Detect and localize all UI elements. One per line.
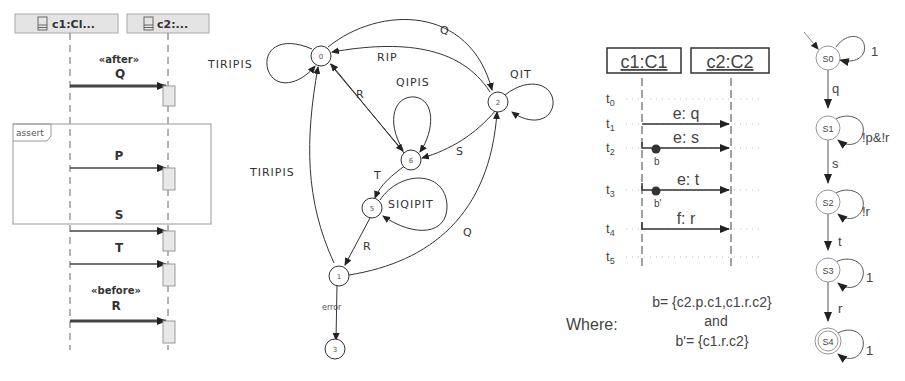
automaton-panel: 0 2 6 5 1 3 TIRIPIS Q RIP QIT QIPIS — [207, 19, 553, 359]
time-label: t5 — [606, 249, 615, 266]
lifeline-head-c2[interactable]: c2:... — [127, 14, 209, 33]
time-label: t1 — [606, 116, 615, 133]
state-node-1[interactable]: 1 — [329, 266, 349, 286]
edge-1-3[interactable] — [336, 285, 337, 340]
buchi-state-S2[interactable]: S2 — [816, 190, 840, 214]
sequence-diagram-panel: c1:Cl... c2:... assert «after» Q P S — [13, 14, 211, 350]
automaton-lower-labels: TIRIPIS T SIQIPIT R Q error — [249, 166, 473, 312]
message-label: e: q — [673, 105, 700, 122]
activation-bar — [163, 168, 175, 190]
edge-label: RIP — [377, 51, 398, 64]
figure-canvas: c1:Cl... c2:... assert «after» Q P S — [0, 0, 905, 381]
marker-label: b — [654, 156, 660, 167]
transition-label: q — [832, 81, 839, 96]
message-stereotype: «before» — [91, 285, 141, 296]
state-label: S2 — [822, 198, 833, 208]
edge-label: QIT — [510, 68, 532, 81]
transition-label: s — [832, 156, 839, 171]
edge-label: S — [456, 145, 464, 158]
node-label: 0 — [319, 53, 323, 61]
edge-2-2[interactable] — [505, 84, 553, 120]
buchi-state-S3[interactable]: S3 — [816, 258, 840, 282]
self-loop-label: 1 — [866, 343, 873, 358]
edge-label: T — [373, 169, 382, 182]
lifeline-head-c1-C1[interactable]: c1:C1 — [607, 48, 681, 73]
initial-arrow — [804, 32, 818, 49]
where-line: b= {c2.p.c1,c1.r.c2} — [652, 294, 772, 310]
message-label: e: s — [673, 129, 699, 146]
marker-label: b' — [654, 198, 662, 209]
buchi-state-S4-accepting[interactable]: S4 — [815, 328, 841, 354]
time-label: t2 — [606, 140, 615, 157]
fragment-label: assert — [16, 128, 44, 138]
edge-label: TIRIPIS — [249, 166, 295, 179]
lifeline-label: c2:... — [157, 18, 188, 31]
edge-0-6[interactable] — [330, 64, 403, 151]
self-loop-label: 1 — [871, 44, 878, 59]
transition-label: t — [838, 234, 842, 249]
lifeline-head-c1[interactable]: c1:Cl... — [15, 14, 118, 33]
lifeline-label: c2:C2 — [706, 52, 753, 72]
state-node-5[interactable]: 5 — [362, 198, 382, 218]
lifeline-head-c2-C2[interactable]: c2:C2 — [691, 48, 769, 73]
state-label: S0 — [822, 54, 833, 64]
state-node-0[interactable]: 0 — [311, 46, 331, 66]
activation-bar — [163, 86, 175, 106]
lifeline-label: c1:C1 — [620, 52, 667, 72]
edge-label: Q — [440, 24, 450, 37]
assert-fragment: assert — [13, 124, 211, 224]
self-loop-label: !p&!r — [862, 130, 890, 145]
buchi-state-S1[interactable]: S1 — [816, 116, 840, 140]
time-label: t0 — [606, 91, 615, 108]
state-node-2[interactable]: 2 — [488, 92, 508, 112]
buchi-state-S0[interactable]: S0 — [816, 46, 840, 70]
activation-bar — [163, 264, 175, 286]
node-label: 6 — [409, 157, 414, 165]
edge-label: QIPIS — [396, 76, 430, 89]
timed-sequence-panel: c1:C1 c2:C2 t0 t1 t2 t3 t4 t5 e — [566, 48, 772, 349]
edge-0-0[interactable] — [267, 44, 315, 83]
self-loop-label: 1 — [866, 270, 873, 285]
state-node-6[interactable]: 6 — [401, 150, 421, 170]
edge-1-0[interactable] — [310, 67, 334, 263]
lifeline-label: c1:Cl... — [52, 18, 95, 31]
message-label: S — [115, 208, 124, 222]
where-clause: Where: b= {c2.p.c1,c1.r.c2} and b'= {c1.… — [566, 294, 772, 349]
state-label: S3 — [822, 266, 833, 276]
edge-label: R — [356, 88, 365, 101]
where-label: Where: — [566, 316, 618, 333]
node-label: 5 — [370, 205, 374, 213]
node-label: 3 — [333, 346, 337, 354]
state-node-3[interactable]: 3 — [325, 339, 345, 359]
self-loop-S4[interactable] — [838, 330, 863, 358]
transition-label: r — [838, 301, 843, 316]
activation-bar — [163, 231, 175, 251]
edge-label: Q — [463, 226, 473, 239]
self-loop-label: !r — [862, 204, 871, 219]
buchi-automaton-panel: q s t r S0 1 S1 !p&!r S2 !r S3 — [804, 32, 890, 358]
self-loop-S3[interactable] — [836, 259, 863, 287]
where-line: b'= {c1.r.c2} — [675, 333, 748, 349]
time-label: t3 — [606, 182, 615, 199]
time-label: t4 — [606, 221, 615, 238]
message-stereotype: «after» — [99, 54, 140, 65]
message-label: e: t — [677, 171, 700, 188]
marker-dot — [652, 145, 661, 154]
node-label: 2 — [496, 99, 500, 107]
message-label: Q — [115, 67, 125, 81]
message-label: P — [115, 149, 124, 163]
edge-label: TIRIPIS — [207, 58, 253, 71]
edge-label: error — [322, 303, 342, 312]
activation-bar — [163, 321, 175, 343]
node-label: 1 — [337, 273, 341, 281]
edge-6-6[interactable] — [394, 97, 431, 152]
message-label: T — [115, 241, 124, 255]
message-label: f: r — [677, 210, 696, 227]
state-label: S1 — [822, 124, 833, 134]
marker-dot — [652, 187, 661, 196]
edge-label: R — [363, 240, 372, 253]
edge-label: SIQIPIT — [388, 198, 434, 211]
message-label: R — [111, 299, 120, 313]
state-label: S4 — [822, 337, 833, 347]
where-line: and — [704, 313, 727, 329]
